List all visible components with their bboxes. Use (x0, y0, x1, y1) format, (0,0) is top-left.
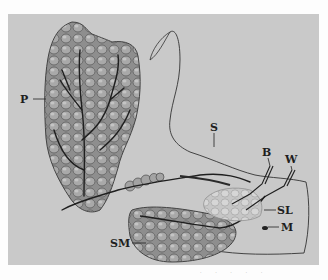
label-parotid-duct: S (210, 121, 218, 134)
label-submandibular: SM (110, 237, 130, 250)
label-w: W (284, 153, 298, 166)
label-parotid: P (20, 93, 28, 106)
label-b: B (262, 146, 271, 159)
mental-foramen (262, 226, 268, 230)
label-mental: M (281, 221, 293, 234)
caption-faint: . . . . . (200, 268, 320, 274)
label-sublingual: SL (277, 204, 293, 217)
salivary-gland-illustration: P S B W SL M SM . . . . . (0, 0, 328, 280)
